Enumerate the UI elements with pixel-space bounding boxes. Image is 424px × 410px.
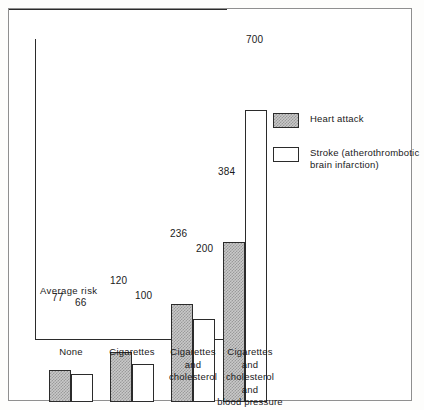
legend: Heart attack Stroke (atherothrombotic br… — [273, 113, 423, 193]
legend-label-heart-attack: Heart attack — [310, 113, 423, 125]
bar-value-cigarettes-cholesterol-bloodpressure-heart: 384 — [218, 166, 235, 177]
category-label-none: None — [41, 346, 101, 359]
bar-value-cigarettes-stroke: 100 — [135, 290, 152, 301]
figure-frame-border: 77 66 None 120 100 Cigarettes 236 200 Ci… — [8, 8, 412, 401]
category-label-cigarettes-cholesterol-bloodpressure: Cigarettes and cholesterol and blood pre… — [205, 346, 295, 409]
bar-cigarettes-stroke[interactable] — [132, 364, 154, 402]
bar-value-none-stroke: 66 — [75, 297, 87, 308]
legend-swatch-heart-attack-icon — [273, 113, 299, 128]
category-label-cigarettes: Cigarettes — [102, 346, 162, 359]
bar-value-cigarettes-cholesterol-heart: 236 — [170, 228, 187, 239]
average-risk-label: Average risk — [40, 285, 97, 296]
bar-value-cigarettes-cholesterol-bloodpressure-stroke: 700 — [246, 34, 263, 45]
y-axis-line — [35, 39, 36, 340]
legend-label-stroke: Stroke (atherothrombotic brain infarctio… — [310, 147, 423, 171]
legend-swatch-stroke-icon — [273, 147, 299, 162]
x-axis-baseline — [35, 339, 253, 340]
bar-none-heart-attack[interactable] — [49, 370, 71, 402]
average-risk-reference-line — [9, 9, 227, 10]
plot-area: 77 66 None 120 100 Cigarettes 236 200 Ci… — [9, 9, 413, 402]
bar-none-stroke[interactable] — [71, 374, 93, 402]
legend-entry-heart-attack[interactable]: Heart attack — [273, 113, 423, 125]
figure-container: 77 66 None 120 100 Cigarettes 236 200 Ci… — [0, 0, 424, 410]
bar-value-cigarettes-heart: 120 — [110, 275, 127, 286]
bar-value-cigarettes-cholesterol-stroke: 200 — [196, 243, 213, 254]
bar-cigarettes-heart-attack[interactable] — [110, 352, 132, 402]
legend-entry-stroke[interactable]: Stroke (atherothrombotic brain infarctio… — [273, 147, 423, 171]
